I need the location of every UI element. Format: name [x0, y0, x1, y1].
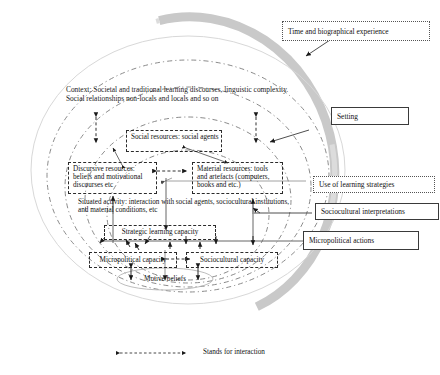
callout-micropolitical-actions[interactable]: Micropolitical actions	[303, 231, 419, 250]
box-sociocultural-capacity-label: Sociocultural capacity	[187, 256, 277, 264]
callout-time-label: Time and biographical experience	[288, 27, 389, 36]
box-discursive-resources-label: Discursive resources: beliefs and motiva…	[73, 165, 154, 189]
box-strategic-learning-capacity[interactable]: Strategic learning capacity	[104, 225, 216, 240]
diagram-canvas: Context: Societal and traditional learni…	[0, 0, 440, 375]
callout-use-of-learning-strategies[interactable]: Use of learning strategies	[313, 176, 435, 193]
box-strategic-learning-capacity-label: Strategic learning capacity	[105, 228, 215, 236]
situated-activity-label: Situated activity: interaction with soci…	[78, 198, 300, 214]
callout-strategies-label: Use of learning strategies	[319, 180, 394, 189]
callout-setting-label: Setting	[337, 112, 358, 121]
callout-micropolitical-label: Micropolitical actions	[309, 236, 374, 245]
box-material-resources[interactable]: Material resources: tools and artefacts …	[192, 162, 283, 194]
callout-interpretations-label: Sociocultural interpretations	[321, 207, 405, 216]
box-social-resources-label: Social resources: social agents	[131, 133, 219, 141]
box-sociocultural-capacity[interactable]: Sociocultural capacity	[186, 252, 278, 268]
motive-beliefs-label: Motive/beliefs	[117, 275, 213, 283]
box-material-resources-label: Material resources: tools and artefacts …	[197, 165, 280, 189]
box-social-resources[interactable]: Social resources: social agents	[126, 130, 222, 152]
legend-text: Stands for interaction	[203, 348, 265, 356]
box-micropolitical-capacity-label: Micropolitical capacity	[90, 256, 176, 264]
context-text: Context: Societal and traditional learni…	[66, 86, 294, 103]
callout-setting[interactable]: Setting	[331, 107, 409, 125]
callout-time-and-biographical-experience[interactable]: Time and biographical experience	[282, 21, 430, 41]
box-micropolitical-capacity[interactable]: Micropolitical capacity	[89, 252, 177, 268]
callout-sociocultural-interpretations[interactable]: Sociocultural interpretations	[315, 203, 439, 220]
box-discursive-resources[interactable]: Discursive resources: beliefs and motiva…	[68, 162, 157, 194]
